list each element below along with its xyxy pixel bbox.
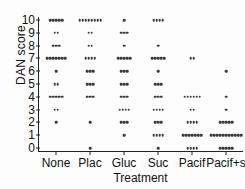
data-point — [160, 96, 163, 99]
data-point — [126, 32, 129, 35]
data-point — [225, 96, 228, 99]
data-point — [123, 19, 126, 22]
y-tick-label: 1 — [28, 129, 35, 141]
data-point — [225, 108, 228, 111]
dan-score-strip-plot: DAN score 012345678910 NonePlacGlucSucPa… — [0, 0, 245, 189]
data-point — [157, 70, 160, 73]
data-point — [126, 121, 129, 124]
data-point — [126, 70, 129, 73]
data-point — [161, 19, 164, 22]
data-point — [200, 134, 203, 137]
data-point — [129, 57, 132, 60]
data-point — [89, 147, 92, 150]
y-tick-label: 10 — [22, 14, 35, 26]
x-tick-label-suc: Suc — [148, 157, 169, 169]
x-tick-mark — [158, 151, 159, 155]
data-point — [55, 70, 58, 73]
data-point — [56, 83, 59, 86]
data-point — [127, 108, 130, 111]
y-tick-mark — [36, 109, 40, 110]
data-point — [123, 44, 126, 47]
y-tick-mark — [36, 122, 40, 123]
y-tick-label: 2 — [28, 116, 35, 128]
data-point — [195, 147, 198, 150]
y-tick-label: 4 — [28, 91, 35, 103]
data-point — [93, 57, 96, 60]
x-tick-mark — [226, 151, 227, 155]
y-tick-label: 0 — [28, 142, 35, 154]
data-point — [198, 96, 201, 99]
x-tick-mark — [90, 151, 91, 155]
x-tick-label-none: None — [42, 157, 71, 169]
data-point — [99, 19, 102, 22]
y-tick-label: 8 — [28, 40, 35, 52]
y-tick-mark — [36, 84, 40, 85]
data-point — [126, 83, 129, 86]
data-point — [123, 134, 126, 137]
y-tick-mark — [36, 135, 40, 136]
data-point — [240, 134, 243, 137]
y-tick-mark — [36, 32, 40, 33]
y-tick-label: 5 — [28, 78, 35, 90]
data-point — [161, 108, 164, 111]
data-point — [160, 121, 163, 124]
data-point — [126, 96, 129, 99]
y-tick-label: 7 — [28, 52, 35, 64]
x-tick-label-gluc: Gluc — [112, 157, 137, 169]
data-point — [192, 108, 195, 111]
data-point — [89, 121, 92, 124]
y-tick-label: 9 — [28, 27, 35, 39]
x-tick-mark — [192, 151, 193, 155]
data-point — [157, 44, 160, 47]
data-point — [56, 108, 59, 111]
data-point — [56, 32, 59, 35]
data-point — [231, 147, 234, 150]
x-tick-label-pacifpluss: Pacif+s — [206, 157, 245, 169]
x-tick-mark — [56, 151, 57, 155]
data-point — [92, 96, 95, 99]
data-point — [61, 19, 64, 22]
data-point — [64, 57, 67, 60]
data-point — [61, 96, 64, 99]
data-point — [160, 83, 163, 86]
y-tick-mark — [36, 96, 40, 97]
data-point — [157, 147, 160, 150]
y-tick-mark — [36, 20, 40, 21]
data-point — [55, 121, 58, 124]
y-tick-mark — [36, 71, 40, 72]
y-tick-mark — [36, 45, 40, 46]
data-point — [163, 57, 166, 60]
data-point — [90, 44, 93, 47]
data-point — [161, 134, 164, 137]
x-axis-title: Treatment — [38, 172, 243, 184]
y-tick-label: 3 — [28, 104, 35, 116]
data-point — [92, 70, 95, 73]
y-tick-mark — [36, 58, 40, 59]
data-point — [195, 121, 198, 124]
x-tick-label-pacif: Pacif — [179, 157, 206, 169]
data-point — [90, 32, 93, 35]
data-point — [58, 44, 61, 47]
data-point — [192, 57, 195, 60]
x-tick-label-plac: Plac — [78, 157, 101, 169]
plot-area: 012345678910 NonePlacGlucSucPacifPacif+s — [38, 17, 243, 152]
x-tick-mark — [124, 151, 125, 155]
data-point — [225, 70, 228, 73]
y-tick-label: 6 — [28, 65, 35, 77]
y-tick-mark — [36, 148, 40, 149]
data-point — [92, 83, 95, 86]
data-point — [231, 121, 234, 124]
